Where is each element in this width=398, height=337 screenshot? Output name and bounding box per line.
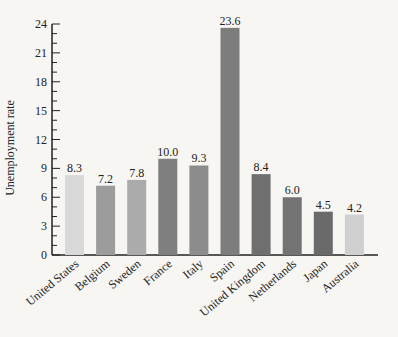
bar	[283, 197, 302, 255]
y-tick-label: 24	[35, 17, 47, 31]
x-tick-label: France	[141, 257, 175, 289]
bar-value-label: 10.0	[157, 145, 178, 159]
x-tick-label: Italy	[180, 257, 206, 282]
y-axis-label: Unemployment rate	[3, 100, 17, 196]
bar-value-label: 4.2	[347, 201, 362, 215]
x-tick-labels: United StatesBelgiumSwedenFranceItalySpa…	[23, 256, 362, 319]
bars: 8.37.27.810.09.323.68.46.04.54.2	[65, 14, 364, 255]
bar-value-label: 23.6	[220, 14, 241, 28]
bar	[189, 165, 208, 255]
bar	[252, 174, 271, 255]
chart-canvas: 03691215182124 8.37.27.810.09.323.68.46.…	[0, 0, 398, 337]
bar	[158, 159, 177, 255]
bar-value-label: 6.0	[285, 183, 300, 197]
bar	[314, 212, 333, 255]
bar-value-label: 9.3	[191, 151, 206, 165]
bar-chart: 03691215182124 8.37.27.810.09.323.68.46.…	[0, 0, 398, 337]
y-tick-label: 0	[41, 248, 47, 262]
y-tick-label: 9	[41, 161, 47, 175]
bar	[345, 215, 364, 255]
bar-value-label: 8.4	[254, 160, 269, 174]
x-tick-label: Sweden	[106, 257, 144, 292]
bar-value-label: 7.8	[129, 166, 144, 180]
bar	[65, 175, 84, 255]
bar	[221, 28, 240, 255]
y-tick-label: 18	[35, 75, 47, 89]
y-tick-label: 3	[41, 219, 47, 233]
bar	[127, 180, 146, 255]
y-tick-label: 6	[41, 190, 47, 204]
bar-value-label: 4.5	[316, 198, 331, 212]
y-tick-label: 21	[35, 46, 47, 60]
x-tick-label: Belgium	[72, 256, 113, 294]
y-tick-label: 12	[35, 133, 47, 147]
y-tick-label: 15	[35, 104, 47, 118]
bar-value-label: 7.2	[98, 172, 113, 186]
bar-value-label: 8.3	[67, 161, 82, 175]
bar	[96, 186, 115, 255]
